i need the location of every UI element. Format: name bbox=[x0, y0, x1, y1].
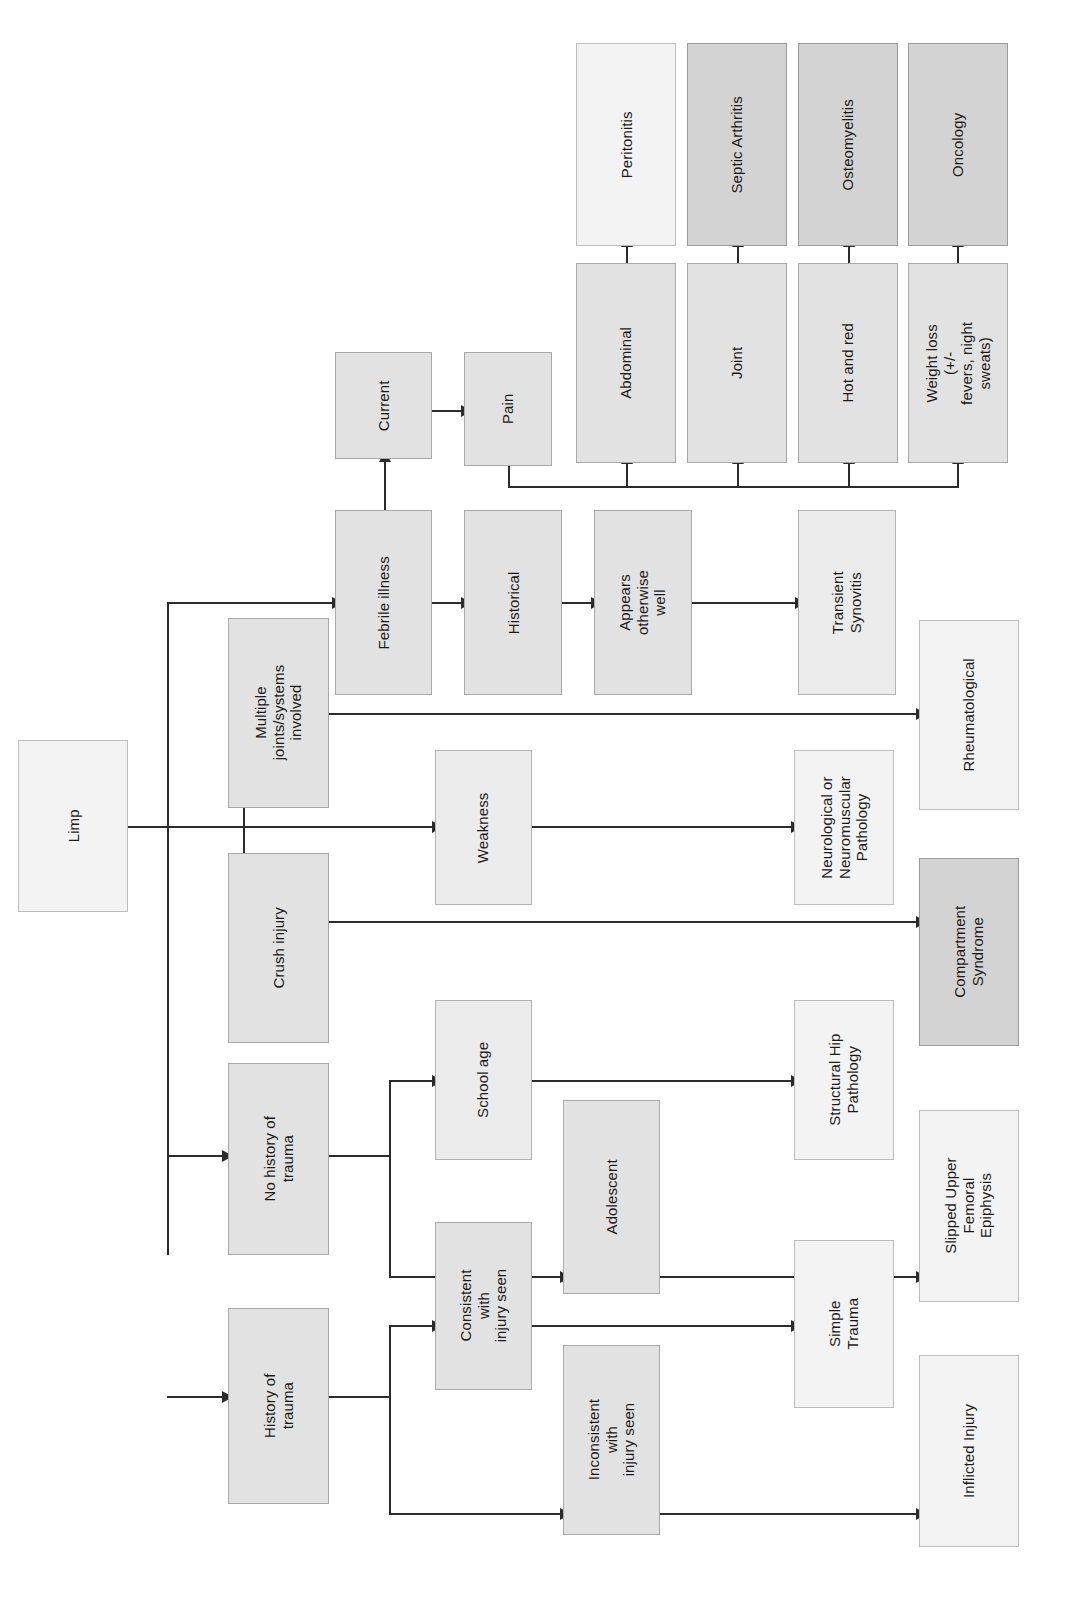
edge-crush-compartment bbox=[329, 921, 919, 923]
node-simple-trauma-label: Simple Trauma bbox=[826, 1275, 861, 1373]
edge-bus-hotred bbox=[848, 463, 850, 488]
node-limp-label: Limp bbox=[64, 810, 82, 843]
node-school-age-label: School age bbox=[475, 1042, 493, 1118]
node-abdominal[interactable]: Abdominal bbox=[576, 263, 676, 463]
edge-pain-bus bbox=[508, 486, 959, 488]
node-rheumatological[interactable]: Rheumatological bbox=[919, 620, 1019, 810]
edge-multiple-rheum bbox=[329, 713, 919, 715]
node-joint-label: Joint bbox=[728, 347, 746, 379]
node-hot-and-red[interactable]: Hot and red bbox=[798, 263, 898, 463]
node-multiple-joints[interactable]: Multiple joints/systems involved bbox=[228, 618, 329, 808]
node-weakness-label: Weakness bbox=[475, 792, 493, 863]
node-compartment-syndrome[interactable]: Compartment Syndrome bbox=[919, 858, 1019, 1046]
node-inflicted-injury-label: Inflicted Injury bbox=[960, 1404, 978, 1498]
node-inconsistent-injury-label: Inconsistent with injury seen bbox=[585, 1393, 638, 1488]
node-septic-arthritis-label: Septic Arthritis bbox=[728, 96, 746, 193]
node-historical[interactable]: Historical bbox=[464, 510, 562, 695]
edge-limp-history bbox=[167, 1396, 225, 1398]
node-neuro-pathology[interactable]: Neurological or Neuromuscular Pathology bbox=[794, 750, 894, 905]
node-pain-label: Pain bbox=[499, 394, 517, 424]
node-no-history-trauma-label: No history of trauma bbox=[261, 1110, 296, 1209]
edge-split-consistent bbox=[389, 1325, 435, 1327]
edge-limp-nohistory bbox=[167, 1155, 225, 1157]
node-joint[interactable]: Joint bbox=[687, 263, 787, 463]
edge-current-pain bbox=[432, 410, 464, 412]
flowchart-canvas: Limp Multiple joints/systems involved Cr… bbox=[0, 0, 1077, 1605]
edge-febrile-current bbox=[384, 459, 386, 510]
node-septic-arthritis[interactable]: Septic Arthritis bbox=[687, 43, 787, 246]
node-current-label: Current bbox=[375, 380, 393, 431]
edge-history-out bbox=[329, 1396, 391, 1398]
node-transient-synovitis[interactable]: Transient Synovitis bbox=[798, 510, 896, 695]
edge-bus-joint bbox=[737, 463, 739, 488]
edge-limp-spine bbox=[167, 602, 169, 1255]
edge-appears-transient bbox=[692, 602, 798, 604]
edge-febrile-historical bbox=[432, 602, 464, 604]
edge-limp-stub bbox=[128, 826, 168, 828]
edge-consistent-simple bbox=[532, 1325, 794, 1327]
node-slipped-epiphysis[interactable]: Slipped Upper Femoral Epiphysis bbox=[919, 1110, 1019, 1302]
edge-split-inconsistent bbox=[389, 1513, 563, 1515]
node-oncology-label: Oncology bbox=[949, 112, 967, 176]
node-multiple-joints-label: Multiple joints/systems involved bbox=[252, 665, 305, 761]
node-pain[interactable]: Pain bbox=[464, 352, 552, 466]
node-school-age[interactable]: School age bbox=[435, 1000, 532, 1160]
node-hot-and-red-label: Hot and red bbox=[839, 323, 857, 402]
node-rheumatological-label: Rheumatological bbox=[960, 658, 978, 771]
node-no-history-trauma[interactable]: No history of trauma bbox=[228, 1063, 329, 1255]
node-osteomyelitis[interactable]: Osteomyelitis bbox=[798, 43, 898, 246]
node-adolescent-label: Adolescent bbox=[603, 1159, 621, 1234]
node-simple-trauma[interactable]: Simple Trauma bbox=[794, 1240, 894, 1408]
node-weight-loss-label: Weight loss (+/- fevers, night sweats) bbox=[923, 314, 994, 412]
node-peritonitis[interactable]: Peritonitis bbox=[576, 43, 676, 246]
node-appears-otherwise-well-label: Appears otherwise well bbox=[616, 555, 669, 651]
node-osteomyelitis-label: Osteomyelitis bbox=[839, 99, 857, 190]
node-history-trauma[interactable]: History of trauma bbox=[228, 1308, 329, 1504]
edge-limp-weakness bbox=[167, 826, 435, 828]
node-limp[interactable]: Limp bbox=[18, 740, 128, 912]
node-inflicted-injury[interactable]: Inflicted Injury bbox=[919, 1355, 1019, 1547]
node-current[interactable]: Current bbox=[335, 352, 432, 459]
node-transient-synovitis-label: Transient Synovitis bbox=[829, 555, 864, 651]
node-febrile-illness[interactable]: Febrile illness bbox=[335, 510, 432, 695]
node-structural-hip-label: Structural Hip Pathology bbox=[826, 1034, 861, 1126]
node-appears-otherwise-well[interactable]: Appears otherwise well bbox=[594, 510, 692, 695]
edge-limp-febrile bbox=[167, 602, 335, 604]
edge-split-schoolage bbox=[389, 1080, 435, 1082]
edge-weakness-neuro bbox=[532, 826, 794, 828]
node-crush-injury-label: Crush injury bbox=[270, 907, 288, 988]
node-structural-hip[interactable]: Structural Hip Pathology bbox=[794, 1000, 894, 1160]
edge-nohistory-split bbox=[389, 1080, 391, 1278]
node-historical-label: Historical bbox=[504, 571, 522, 634]
node-compartment-syndrome-label: Compartment Syndrome bbox=[951, 906, 986, 998]
node-consistent-injury-label: Consistent with injury seen bbox=[457, 1259, 510, 1354]
node-oncology[interactable]: Oncology bbox=[908, 43, 1008, 246]
node-history-trauma-label: History of trauma bbox=[261, 1357, 296, 1456]
node-consistent-injury[interactable]: Consistent with injury seen bbox=[435, 1222, 532, 1390]
node-crush-injury[interactable]: Crush injury bbox=[228, 853, 329, 1043]
node-febrile-illness-label: Febrile illness bbox=[375, 556, 393, 649]
edge-historical-appears bbox=[562, 602, 594, 604]
edge-nohistory-out bbox=[329, 1155, 391, 1157]
node-peritonitis-label: Peritonitis bbox=[617, 111, 635, 178]
edge-pain-drop bbox=[508, 466, 510, 488]
edge-schoolage-hip bbox=[532, 1080, 794, 1082]
edge-bus-weightloss bbox=[957, 463, 959, 488]
node-adolescent[interactable]: Adolescent bbox=[563, 1100, 660, 1294]
node-weakness[interactable]: Weakness bbox=[435, 750, 532, 905]
node-weight-loss[interactable]: Weight loss (+/- fevers, night sweats) bbox=[908, 263, 1008, 463]
edge-inconsistent-inflicted bbox=[660, 1513, 919, 1515]
node-abdominal-label: Abdominal bbox=[617, 327, 635, 399]
node-neuro-pathology-label: Neurological or Neuromuscular Pathology bbox=[817, 776, 870, 879]
edge-bus-abdominal bbox=[626, 463, 628, 488]
edge-history-split bbox=[389, 1325, 391, 1515]
node-inconsistent-injury[interactable]: Inconsistent with injury seen bbox=[563, 1345, 660, 1535]
node-slipped-epiphysis-label: Slipped Upper Femoral Epiphysis bbox=[942, 1157, 995, 1255]
